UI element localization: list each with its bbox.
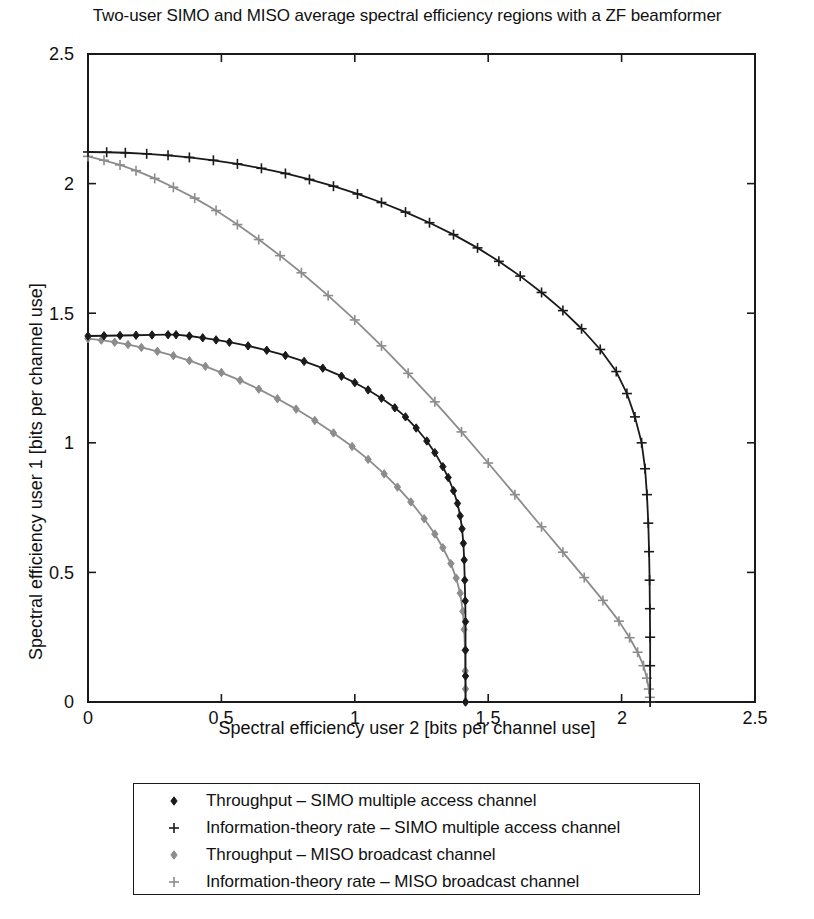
- legend-label-3: Information-theory rate – MISO broadcast…: [206, 872, 579, 892]
- legend-sample-simo-info-rate: [142, 815, 206, 841]
- legend-row-3: Information-theory rate – MISO broadcast…: [134, 869, 699, 895]
- chart-figure: Two-user SIMO and MISO average spectral …: [0, 0, 814, 919]
- legend-label-2: Throughput – MISO broadcast channel: [206, 845, 495, 865]
- plot-canvas: [0, 0, 814, 919]
- legend: Throughput – SIMO multiple access channe…: [133, 783, 700, 895]
- legend-sample-miso-throughput: [142, 842, 206, 868]
- legend-sample-simo-throughput: [142, 788, 206, 814]
- legend-sample-miso-info-rate: [142, 869, 206, 895]
- legend-row-0: Throughput – SIMO multiple access channe…: [134, 788, 699, 814]
- legend-label-0: Throughput – SIMO multiple access channe…: [206, 791, 536, 811]
- legend-label-1: Information-theory rate – SIMO multiple …: [206, 818, 620, 838]
- legend-row-1: Information-theory rate – SIMO multiple …: [134, 815, 699, 841]
- legend-row-2: Throughput – MISO broadcast channel: [134, 842, 699, 868]
